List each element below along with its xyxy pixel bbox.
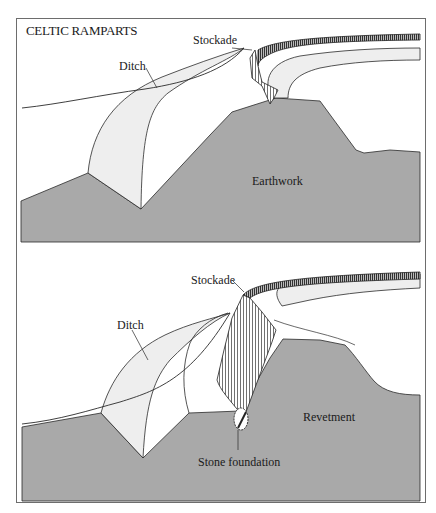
panel-earthwork: CELTIC RAMPARTS Stockade Ditch Earthwork xyxy=(21,22,420,242)
label-earthwork: Earthwork xyxy=(252,174,303,188)
label-ditch-lower: Ditch xyxy=(117,318,144,332)
panel-revetment: Stockade Ditch Revetment Stone foundatio… xyxy=(22,272,420,501)
label-stockade-lower: Stockade xyxy=(191,273,235,287)
figure-title: CELTIC RAMPARTS xyxy=(26,23,137,38)
celtic-ramparts-diagram: CELTIC RAMPARTS Stockade Ditch Earthwork… xyxy=(0,0,436,513)
label-ditch-upper: Ditch xyxy=(119,59,146,73)
label-stockade-upper: Stockade xyxy=(193,33,237,47)
label-stone-foundation: Stone foundation xyxy=(198,455,280,469)
label-revetment: Revetment xyxy=(303,410,356,424)
